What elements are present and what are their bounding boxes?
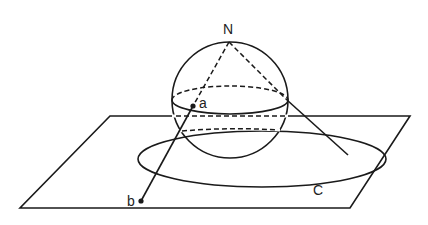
point-a: [190, 103, 195, 108]
stereographic-projection-diagram: N a b C: [0, 0, 428, 225]
projection-line-outer: [141, 106, 193, 201]
point-b: [138, 198, 143, 203]
equator-back: [172, 86, 288, 100]
label-c: C: [313, 182, 323, 198]
tangent-line-inner: [229, 42, 287, 100]
label-a: a: [199, 95, 207, 111]
sphere: [172, 42, 288, 158]
tangent-line-outer: [287, 100, 348, 155]
label-n: N: [223, 21, 233, 37]
label-b: b: [127, 193, 135, 209]
